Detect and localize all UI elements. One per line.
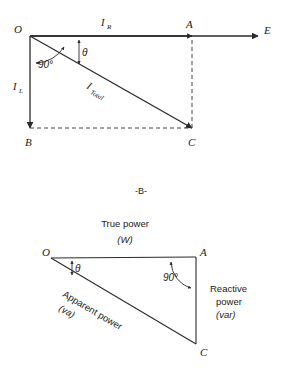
label-resistive-current: I R xyxy=(100,17,112,31)
label-point-o-bottom: O xyxy=(42,246,50,258)
total-current-phasor xyxy=(30,36,192,128)
label-resistive-current-symbol: I xyxy=(100,17,105,28)
label-apparent-power-group: Apparent power (va) xyxy=(54,288,124,344)
label-reactive-power-line2: power xyxy=(216,296,242,307)
power-triangle-diagram-group: O A C True power (W) Apparent power (va)… xyxy=(42,218,247,358)
label-theta-bottom: θ xyxy=(75,263,81,274)
label-point-c-bottom: C xyxy=(200,346,208,358)
figure-caption: -B- xyxy=(135,186,147,196)
label-total-current: I Total xyxy=(83,80,108,103)
label-point-c-top: C xyxy=(188,136,196,148)
label-right-angle-bottom: 90° xyxy=(163,272,178,283)
label-right-angle-top: 90° xyxy=(38,59,53,70)
label-true-power-unit: (W) xyxy=(117,234,132,245)
label-inductive-current-symbol: I xyxy=(12,81,17,92)
label-resistive-current-subscript: R xyxy=(106,23,112,31)
label-point-b-top: B xyxy=(25,136,32,148)
label-point-a-bottom: A xyxy=(199,246,207,258)
label-inductive-current: I L xyxy=(12,81,23,95)
true-power-line xyxy=(51,257,196,258)
label-reactive-power-unit: (var) xyxy=(216,309,236,320)
current-phasor-diagram-group: O A E B C I R I L I Total 90° θ xyxy=(12,17,271,148)
label-reactive-power-line1: Reactive xyxy=(210,283,247,294)
label-inductive-current-subscript: L xyxy=(18,87,23,95)
label-point-o-top: O xyxy=(14,23,22,35)
label-true-power: True power xyxy=(101,218,149,229)
phasor-diagrams-svg: O A E B C I R I L I Total 90° θ -B- xyxy=(0,0,283,369)
figure-container: O A E B C I R I L I Total 90° θ -B- xyxy=(0,0,283,369)
label-total-current-subscript: Total xyxy=(89,88,105,102)
label-theta-top: θ xyxy=(82,47,88,58)
label-point-a-top: A xyxy=(185,18,193,30)
label-point-e-top: E xyxy=(263,24,271,36)
